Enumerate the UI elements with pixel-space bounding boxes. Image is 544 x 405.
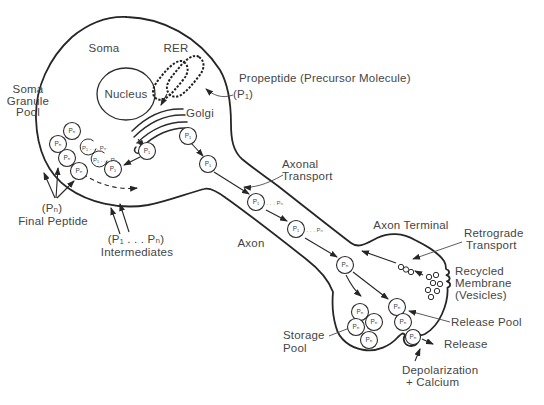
peptide-granule-label: P₁ [253,198,259,205]
soma-granule-pool-label: Granule [7,95,49,107]
golgi-label: Golgi [186,107,214,119]
peptide-granule-label: P₁ [205,160,211,167]
peptide-granule-label: Pₙ [342,261,349,268]
neuron-peptide-diagram: Soma RER Nucleus Soma Granule Pool Golgi… [0,0,544,405]
propeptide-label: Propeptide (Precursor Molecule) [239,72,411,84]
axon-label: Axon [237,237,264,249]
peptide-granule-label: Pₙ [69,127,76,134]
peptide-granule-label: Pₙ [76,167,83,174]
vesicle-dot [426,274,431,279]
depolarization-label: + Calcium [406,376,459,388]
peptide-granule-label: Pₙ [366,336,373,343]
peptide-granule-label: Pₙ [410,333,417,340]
vesicle-dot [434,288,439,293]
retrograde-transport-label: Transport [466,239,517,251]
recycled-membrane-label: Recycled [455,265,504,277]
vesicle-dot [433,272,438,277]
final-peptide-symbol: (Pₙ) [42,202,63,214]
peptide-granule-label: Pₙ [371,318,378,325]
peptide-granule-label: Pₙ [64,154,71,161]
vesicle-dot [428,294,433,299]
peptide-granule-label: Pₙ [400,318,407,325]
processing-cycle-label: P₁ . . . Pₙ [82,145,107,151]
peptide-granule-label: Pₙ [55,140,62,147]
figure: Soma RER Nucleus Soma Granule Pool Golgi… [0,0,544,405]
soma-label: Soma [89,42,120,54]
recycled-membrane-label: (Vesicles) [455,289,507,301]
peptide-suffix-label: . . . Pₙ [307,227,324,233]
vesicle-dot [437,281,442,286]
peptide-granule-label: P₁ [110,165,116,172]
vesicle-dot [408,269,413,274]
retrograde-transport-label: Retrograde [464,227,524,239]
peptide-suffix-label: . . . Pₙ [267,200,284,206]
soma-granule-pool-label: Soma [13,83,44,95]
axon-terminal-label: Axon Terminal [373,219,448,231]
intermediates-label: Intermediates [101,246,173,258]
vesicle-dot [430,280,435,285]
release-site-granule: Pₙ [406,330,421,345]
rer-label: RER [164,42,189,54]
release-pool-label: Release Pool [451,316,522,328]
axonal-transport-label: Axonal [282,158,318,170]
peptide-granule-label: P₁ [293,225,299,232]
intermediates-symbol: (P₁ . . . Pₙ) [108,233,164,245]
final-peptide-label: Final Peptide [18,215,88,227]
peptide-granule-label: P₁ [144,147,150,154]
processing-cycle-label: P₁ . . . Pₙ [93,157,118,163]
storage-pool-label: Pool [283,342,307,354]
peptide-granule-label: Pₙ [394,303,401,310]
vesicle-dot [425,287,430,292]
storage-pool-label: Storage [283,329,325,341]
axonal-transport-label: Transport [282,170,333,182]
release-label: Release [444,338,488,350]
soma-granule-pool-label: Pool [16,106,40,118]
depolarization-label: Depolarization [402,364,478,376]
recycled-membrane-label: Membrane [455,277,512,289]
peptide-granule-label: Pₙ [353,323,360,330]
nucleus-label: Nucleus [105,88,148,100]
peptide-granule-label: Pₙ [357,308,364,315]
propeptide-symbol: (P₁) [233,88,253,100]
peptide-granule-label: P₁ [185,132,191,139]
